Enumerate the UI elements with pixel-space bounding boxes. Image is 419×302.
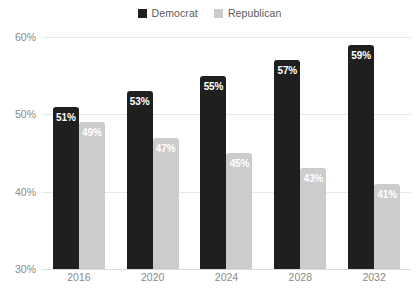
bar-group: 53%47% [116,37,190,269]
y-axis-tick-label: 50% [15,109,36,120]
bar-group: 57%43% [263,37,337,269]
x-axis-tick-label: 2028 [289,272,312,283]
bar-value-label: 57% [274,66,300,76]
x-axis-tick-label: 2024 [215,272,238,283]
plot-area: 60%50%40%30% 51%49%53%47%55%45%57%43%59%… [42,37,411,269]
bar-democrat-2028[interactable]: 57% [274,60,300,269]
grouped-bar-chart: Democrat Republican 60%50%40%30% 51%49%5… [0,0,419,302]
bar-republican-2024[interactable]: 45% [226,153,252,269]
legend-label-republican: Republican [228,8,282,19]
bar-republican-2028[interactable]: 43% [300,168,326,269]
bar-value-label: 47% [153,144,179,154]
bar-republican-2032[interactable]: 41% [374,184,400,269]
bar-value-label: 53% [127,97,153,107]
x-axis-tick-labels: 20162020202420282032 [42,272,411,288]
bar-groups: 51%49%53%47%55%45%57%43%59%41% [42,37,411,269]
legend-swatch-democrat [138,9,147,18]
y-axis-tick-label: 40% [15,186,36,197]
bar-value-label: 55% [200,82,226,92]
bar-group: 51%49% [42,37,116,269]
gridline-30 [42,269,411,270]
legend-label-democrat: Democrat [152,8,198,19]
bar-group: 59%41% [337,37,411,269]
legend-item-democrat[interactable]: Democrat [138,8,198,19]
bar-value-label: 43% [300,174,326,184]
x-axis-tick-label: 2020 [141,272,164,283]
chart-legend: Democrat Republican [0,4,419,22]
legend-item-republican[interactable]: Republican [214,8,282,19]
bar-republican-2016[interactable]: 49% [79,122,105,269]
bar-democrat-2020[interactable]: 53% [127,91,153,269]
bar-value-label: 49% [79,128,105,138]
legend-swatch-republican [214,9,223,18]
x-axis-tick-label: 2016 [67,272,90,283]
bar-democrat-2032[interactable]: 59% [348,45,374,269]
bar-value-label: 59% [348,51,374,61]
bar-group: 55%45% [190,37,264,269]
bar-value-label: 45% [226,159,252,169]
bar-value-label: 51% [53,113,79,123]
x-axis-tick-label: 2032 [362,272,385,283]
y-axis-tick-label: 30% [15,264,36,275]
bar-democrat-2024[interactable]: 55% [200,76,226,269]
y-axis-tick-label: 60% [15,32,36,43]
bar-republican-2020[interactable]: 47% [153,138,179,269]
bar-democrat-2016[interactable]: 51% [53,107,79,269]
bar-value-label: 41% [374,190,400,200]
